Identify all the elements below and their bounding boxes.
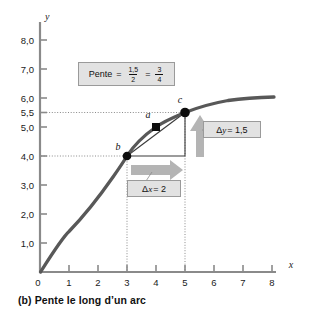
- formula-fraction-2: 3 4: [155, 66, 163, 83]
- formula-denominator-2: 4: [155, 74, 163, 83]
- delta-y-value: = 1,5: [227, 125, 247, 135]
- point-marker-a: [152, 123, 160, 131]
- point-label-b: b: [116, 141, 121, 152]
- x-tick-label-1: 1: [66, 277, 71, 288]
- x-tick-label-2: 2: [95, 277, 100, 288]
- x-tick-label-7: 7: [240, 277, 245, 288]
- x-tick-label-3: 3: [124, 277, 129, 288]
- y-tick-label-3: 3,0: [21, 180, 34, 191]
- point-marker-c: [180, 108, 190, 118]
- point-marker-b: [123, 152, 132, 161]
- x-tick-label-0: 0: [35, 277, 40, 288]
- x-axis-name: x: [288, 259, 294, 270]
- formula-denominator-1: 2: [129, 74, 137, 83]
- formula-numerator-2: 3: [155, 66, 163, 74]
- formula-label: Pente: [89, 69, 113, 79]
- figure-caption: (b) Pente le long d’un arc: [18, 294, 146, 306]
- y-tick-label-2: 2,0: [21, 209, 34, 220]
- delta-x-arrow: [131, 160, 183, 180]
- delta-y-label-box: Δ y = 1,5: [203, 121, 261, 138]
- formula-equals-2: =: [145, 69, 150, 79]
- delta-x-value: = 2: [153, 184, 166, 194]
- point-label-a: a: [146, 109, 151, 120]
- y-tick-label-7: 7,0: [21, 64, 34, 75]
- slope-along-arc-figure: 8,0 7,0 6,0 5,5 5,0 4,0 3,0 2,0 1,0 0 1 …: [0, 0, 313, 318]
- point-label-c: c: [178, 94, 183, 105]
- y-tick-label-1: 1,0: [21, 238, 34, 249]
- formula-fraction-1: 1,5 2: [126, 66, 140, 83]
- slope-formula-box: Pente = 1,5 2 = 3 4: [78, 62, 175, 86]
- x-tick-label-5: 5: [182, 277, 187, 288]
- y-tick-label-4: 4,0: [21, 151, 34, 162]
- y-tick-label-6: 6,0: [21, 93, 34, 104]
- x-tick-label-8: 8: [269, 277, 274, 288]
- secant-line-bc: [127, 113, 185, 157]
- formula-equals-1: =: [116, 69, 121, 79]
- delta-x-label-box: Δ x = 2: [127, 180, 181, 197]
- y-axis-name: y: [44, 11, 50, 22]
- x-tick-label-4: 4: [153, 277, 158, 288]
- y-tick-label-5: 5,0: [21, 122, 34, 133]
- plot-canvas: 8,0 7,0 6,0 5,5 5,0 4,0 3,0 2,0 1,0 0 1 …: [0, 0, 313, 318]
- formula-numerator-1: 1,5: [126, 66, 140, 74]
- y-tick-label-5-5: 5,5: [21, 107, 34, 118]
- y-tick-label-8: 8,0: [21, 35, 34, 46]
- x-tick-label-6: 6: [211, 277, 216, 288]
